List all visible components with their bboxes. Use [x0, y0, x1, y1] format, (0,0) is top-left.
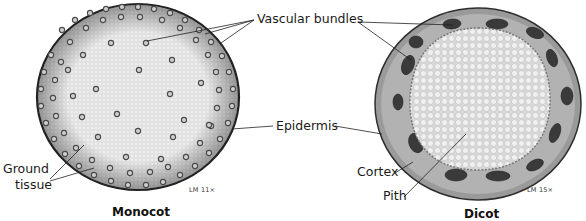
label-pith: Pith — [383, 190, 407, 203]
monocot-magnification: LM 11× — [189, 186, 215, 194]
label-epidermis: Epidermis — [276, 120, 338, 133]
dicot-stem — [375, 8, 581, 200]
caption-dicot: Dicot — [464, 208, 499, 220]
label-cortex: Cortex — [357, 166, 398, 179]
label-vascular-bundles: Vascular bundles — [257, 13, 363, 26]
label-ground-tissue-line2: tissue — [15, 179, 52, 192]
caption-monocot: Monocot — [112, 206, 170, 218]
dicot-magnification: LM 15× — [527, 186, 553, 194]
label-ground-tissue-line1: Ground — [3, 163, 49, 176]
stem-cross-section-figure — [0, 0, 586, 221]
